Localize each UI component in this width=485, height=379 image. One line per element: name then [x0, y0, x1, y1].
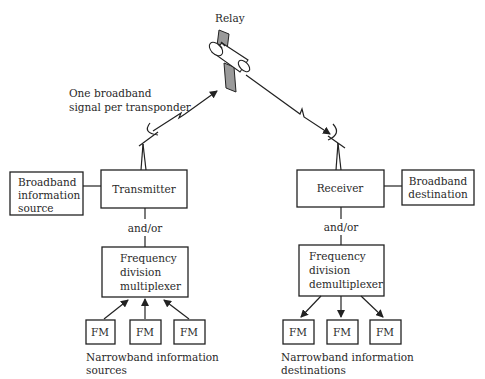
multiplexer-line2: division	[120, 266, 161, 278]
tx-caption-line2: sources	[86, 364, 127, 376]
broadband-source-line3: source	[18, 202, 54, 214]
transmit-and-or-label: and/or	[128, 222, 164, 234]
broadband-source-line1: Broadband	[18, 176, 77, 188]
rx-caption-line2: destinations	[281, 364, 346, 376]
relay-label: Relay	[215, 12, 245, 24]
tx-fm-label-1: FM	[91, 326, 109, 338]
broadband-source-line2: information	[18, 189, 80, 201]
uplink-caption-line2: signal per transponder	[69, 101, 192, 113]
transmitter-label: Transmitter	[112, 183, 176, 195]
satellite-fdm-diagram: Relay One broadband signal per transpond…	[0, 0, 485, 379]
receive-antenna-icon	[328, 124, 345, 170]
demultiplexer-line1: Frequency	[309, 250, 366, 262]
satellite-icon	[207, 30, 252, 92]
tx-fm-label-2: FM	[136, 326, 154, 338]
rx-fm-label-1: FM	[289, 326, 307, 338]
tx-caption-line1: Narrowband information	[86, 351, 219, 363]
downlink-signal-arrow	[246, 75, 330, 134]
demultiplexer-line2: division	[309, 264, 350, 276]
multiplexer-line1: Frequency	[120, 252, 177, 264]
demultiplexer-line3: demultiplexer	[309, 278, 384, 290]
multiplexer-line3: multiplexer	[120, 280, 182, 292]
rx-caption-line1: Narrowband information	[281, 351, 414, 363]
receive-and-or-label: and/or	[324, 221, 360, 233]
receiver-label: Receiver	[317, 182, 365, 194]
broadband-destination-line1: Broadband	[409, 175, 468, 187]
rx-fm-label-3: FM	[376, 326, 394, 338]
tx-fm-label-3: FM	[180, 326, 198, 338]
broadband-destination-line2: destination	[408, 188, 468, 200]
uplink-caption-line1: One broadband	[69, 87, 152, 99]
rx-fm-label-2: FM	[333, 326, 351, 338]
